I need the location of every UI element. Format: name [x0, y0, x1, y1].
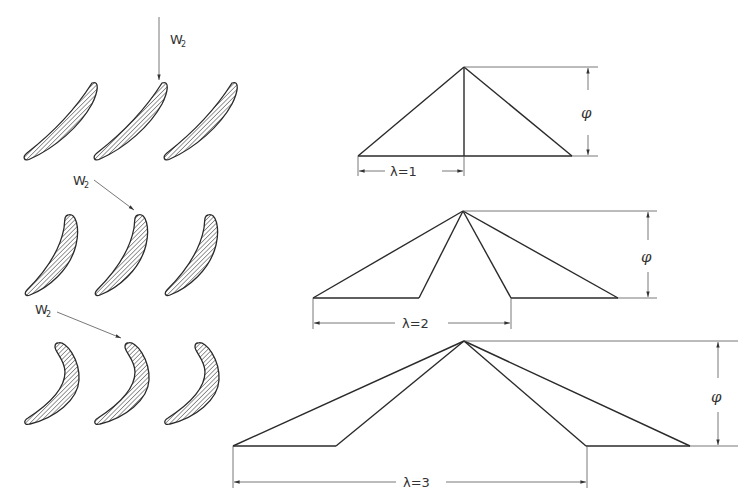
- lambda-label: λ=2: [402, 316, 429, 331]
- blade-cascade-2: W 2: [25, 173, 217, 296]
- inlet-velocity-subscript: 2: [46, 310, 51, 319]
- inlet-velocity-arrow: [94, 180, 134, 210]
- blade: [25, 215, 77, 296]
- blade: [95, 215, 147, 296]
- velocity-triangle-3: φ λ=3: [233, 341, 738, 490]
- inlet-velocity-subscript: 2: [84, 181, 89, 190]
- blade: [95, 343, 149, 425]
- phi-label: φ: [581, 104, 592, 122]
- figure-canvas: W 2 W 2 W 2 φ λ=1: [0, 0, 750, 493]
- blade-cascade-3: W 2: [25, 302, 219, 424]
- lambda-label: λ=1: [390, 164, 417, 179]
- blade: [165, 343, 219, 425]
- blade-cascade-1: W 2: [24, 17, 237, 160]
- blade: [25, 343, 79, 425]
- phi-label: φ: [711, 388, 722, 406]
- inlet-velocity-arrow: [57, 312, 121, 338]
- phi-label: φ: [641, 248, 652, 266]
- blade: [94, 83, 167, 160]
- velocity-triangle-1: φ λ=1: [358, 67, 598, 179]
- velocity-triangle-2: φ λ=2: [313, 211, 657, 331]
- lambda-label: λ=3: [403, 475, 430, 490]
- blade: [164, 83, 237, 160]
- blade: [24, 83, 97, 160]
- blade: [165, 215, 217, 296]
- inlet-velocity-subscript: 2: [181, 40, 186, 49]
